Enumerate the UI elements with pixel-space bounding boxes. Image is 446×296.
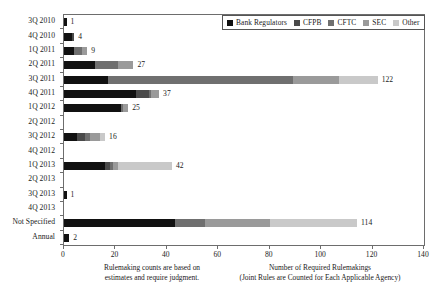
y-tick-mark — [60, 115, 63, 116]
x-axis-subtitle: (Joint Rules are Counted for Each Applic… — [205, 273, 435, 283]
bar-total-label: 2 — [73, 234, 77, 242]
y-tick-mark — [60, 230, 63, 231]
bar-row: 1 — [64, 18, 74, 26]
x-tick-label: 80 — [265, 250, 273, 259]
x-axis-title: Number of Required Rulemakings — [205, 263, 435, 273]
y-tick-mark — [60, 187, 63, 188]
bar-total-label: 1 — [71, 191, 75, 199]
legend-swatch-icon — [328, 20, 334, 26]
bar-total-label: 9 — [91, 47, 95, 55]
y-axis-label: 2Q 2013 — [28, 175, 55, 183]
bar-segment-other — [100, 133, 105, 141]
y-axis-label: 1Q 2012 — [28, 103, 55, 111]
x-tick-label: 0 — [61, 250, 65, 259]
legend-label: Other — [402, 19, 419, 27]
x-tick-label: 60 — [213, 250, 221, 259]
bar-segment-sec — [118, 61, 133, 69]
bar-segment-bank-regulators — [64, 104, 121, 112]
legend-entry-sec: SEC — [363, 19, 386, 27]
bar-segment-sec — [90, 133, 100, 141]
y-tick-mark — [60, 28, 63, 29]
bar-segment-cfpb — [72, 33, 75, 41]
legend-swatch-icon — [363, 20, 369, 26]
bar-segment-bank-regulators — [64, 76, 108, 84]
x-tick-label: 140 — [417, 250, 428, 259]
y-axis-label: Not Specified — [12, 218, 55, 226]
legend-label: CFPB — [303, 19, 321, 27]
y-axis-label: 4Q 2013 — [28, 204, 55, 212]
bar-segment-cfpb — [77, 133, 85, 141]
bar-segment-cftc — [95, 61, 118, 69]
bar-total-label: 16 — [109, 133, 117, 141]
y-axis-label: 3Q 2012 — [28, 132, 55, 140]
bar-row: 114 — [64, 219, 372, 227]
legend-entry-bank-regulators: Bank Regulators — [227, 19, 287, 27]
bar-segment-other — [270, 219, 357, 227]
bar-total-label: 4 — [78, 33, 82, 41]
y-tick-mark — [60, 143, 63, 144]
legend-swatch-icon — [227, 20, 233, 26]
bar-segment-sec — [205, 219, 269, 227]
y-tick-mark — [60, 100, 63, 101]
bar-row: 4 — [64, 33, 82, 41]
x-tick-mark — [114, 246, 115, 249]
x-tick-mark — [423, 246, 424, 249]
legend-entry-cftc: CFTC — [328, 19, 356, 27]
bar-total-label: 25 — [132, 104, 140, 112]
x-tick-mark — [166, 246, 167, 249]
y-axis-label: 3Q 2011 — [29, 75, 55, 83]
legend-label: CFTC — [337, 19, 356, 27]
bar-row: 37 — [64, 90, 171, 98]
legend-swatch-icon — [393, 20, 399, 26]
bar-segment-other — [118, 162, 172, 170]
bar-total-label: 1 — [71, 18, 75, 26]
y-axis-label: 1Q 2011 — [29, 46, 55, 54]
bar-total-label: 114 — [361, 219, 372, 227]
bar-row: 42 — [64, 162, 184, 170]
bar-segment-bank-regulators — [64, 133, 77, 141]
bar-segment-bank-regulators — [64, 90, 136, 98]
bar-total-label: 42 — [176, 162, 184, 170]
x-tick-mark — [320, 246, 321, 249]
x-tick-label: 100 — [314, 250, 325, 259]
bar-segment-sec — [293, 76, 339, 84]
bar-segment-cftc — [175, 219, 206, 227]
bar-segment-sec — [151, 90, 159, 98]
bar-total-label: 122 — [382, 76, 393, 84]
legend-entry-cfpb: CFPB — [294, 19, 321, 27]
bar-row: 122 — [64, 76, 393, 84]
y-axis-label: 2Q 2012 — [28, 118, 55, 126]
bar-segment-other — [339, 76, 378, 84]
y-axis-label: 3Q 2013 — [28, 190, 55, 198]
bar-row: 1 — [64, 191, 74, 199]
y-axis-label: 4Q 2011 — [29, 89, 55, 97]
x-tick-label: 20 — [111, 250, 119, 259]
estimate-note-line-1: Rulemaking counts are based on — [96, 263, 208, 273]
bar-segment-bank-regulators — [64, 191, 67, 199]
bar-segment-bank-regulators — [64, 162, 105, 170]
x-tick-label: 120 — [366, 250, 377, 259]
x-tick-mark — [63, 246, 64, 249]
y-axis-label: 2Q 2011 — [29, 60, 55, 68]
x-tick-label: 40 — [162, 250, 170, 259]
bar-total-label: 27 — [137, 61, 145, 69]
bar-segment-cftc — [74, 47, 82, 55]
bar-segment-bank-regulators — [64, 33, 72, 41]
bar-row: 2 — [64, 234, 77, 242]
estimate-note: Rulemaking counts are based on estimates… — [96, 263, 208, 282]
legend-entry-other: Other — [393, 19, 419, 27]
x-tick-mark — [217, 246, 218, 249]
bar-segment-bank-regulators — [64, 61, 95, 69]
y-tick-mark — [60, 172, 63, 173]
bars-layer: 149271223725164211142 — [64, 15, 424, 245]
y-tick-mark — [60, 72, 63, 73]
bar-segment-sec — [123, 104, 128, 112]
y-axis-label: Annual — [32, 233, 55, 241]
bar-segment-cftc — [108, 76, 293, 84]
y-tick-mark — [60, 215, 63, 216]
bar-segment-bank-regulators — [64, 219, 175, 227]
x-tick-mark — [269, 246, 270, 249]
x-axis-ticks: 020406080100120140 — [63, 246, 425, 260]
bar-row: 16 — [64, 133, 117, 141]
y-tick-mark — [60, 244, 63, 245]
